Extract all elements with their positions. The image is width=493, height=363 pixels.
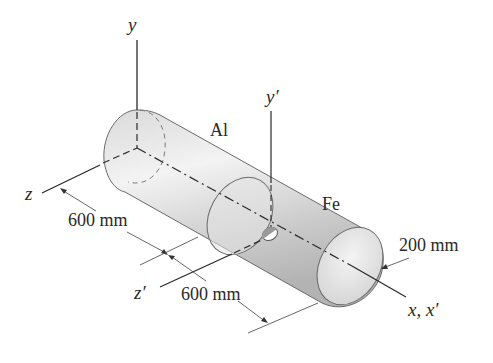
x-axis-label: x, x′ <box>408 300 439 319</box>
material-label-fe: Fe <box>322 195 340 213</box>
dimension-diameter <box>381 258 409 269</box>
al-length-label: 600 mm <box>68 211 128 229</box>
fe-length-label: 600 mm <box>181 285 241 303</box>
material-label-al: Al <box>210 121 228 139</box>
z-prime-axis-label: z′ <box>134 283 146 302</box>
z-axis-label: z <box>25 184 32 203</box>
y-prime-axis-label: y′ <box>266 87 279 106</box>
y-axis-label: y <box>128 15 136 34</box>
diameter-label: 200 mm <box>399 236 459 254</box>
